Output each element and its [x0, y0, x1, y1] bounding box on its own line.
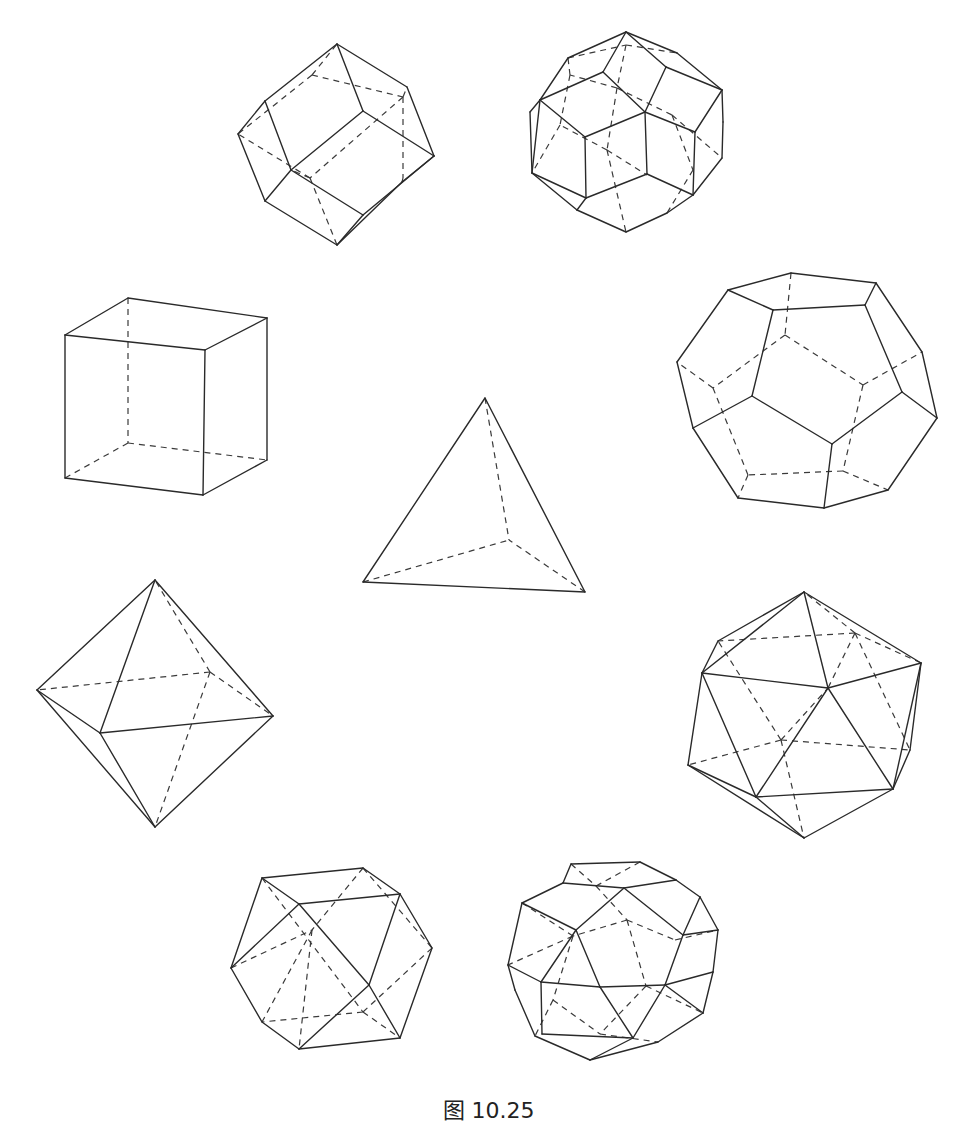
- figure-caption: 图 10.25: [0, 1092, 977, 1124]
- dodecahedron: [677, 273, 937, 508]
- octahedron: [37, 580, 273, 827]
- cube: [65, 298, 267, 495]
- icosidodecahedron: [508, 862, 718, 1060]
- rhombic-triacontahedron: [530, 32, 723, 232]
- rhombic-dodecahedron: [238, 44, 434, 245]
- cuboctahedron: [231, 868, 432, 1049]
- icosahedron: [688, 592, 921, 838]
- tetrahedron: [363, 398, 585, 592]
